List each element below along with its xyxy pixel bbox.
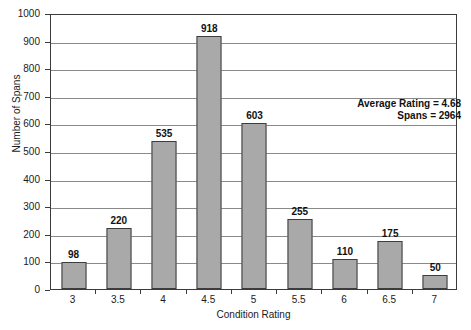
x-tick-label: 5 (251, 294, 257, 306)
y-tick-label: 0 (0, 285, 44, 295)
bar-value-label: 50 (430, 262, 441, 273)
y-tick-label: 400 (0, 175, 44, 185)
x-tick-label: 6 (341, 294, 347, 306)
x-tick-label: 6.5 (382, 294, 396, 306)
y-tick-label: 200 (0, 230, 44, 240)
bar-group: 255 (277, 15, 322, 289)
x-tick-label: 7 (432, 294, 438, 306)
bar (287, 219, 312, 289)
y-tick-label: 1000 (0, 9, 44, 19)
chart-annotation: Average Rating = 4.68 Spans = 2964 (357, 98, 461, 122)
x-axis-tick-labels: 33.544.555.566.57 (50, 294, 457, 308)
y-tick-label: 900 (0, 37, 44, 47)
y-axis-tick-labels: 01002003004005006007008009001000 (0, 14, 44, 290)
bar (378, 241, 403, 289)
x-tick-label: 3 (70, 294, 76, 306)
x-axis-title: Condition Rating (50, 309, 457, 321)
bar-chart: Number of Spans 010020030040050060070080… (0, 0, 471, 330)
bar-value-label: 255 (291, 206, 308, 217)
x-tick-label: 4.5 (201, 294, 215, 306)
y-tick-label: 100 (0, 257, 44, 267)
bar (61, 262, 86, 289)
bar-group: 110 (322, 15, 367, 289)
x-tick-label: 5.5 (292, 294, 306, 306)
plot-area: 9822053591860325511017550 (50, 14, 457, 290)
y-tick-label: 800 (0, 64, 44, 74)
annotation-average-rating: Average Rating = 4.68 (357, 98, 461, 110)
bar-group: 50 (413, 15, 458, 289)
annotation-span-count: Spans = 2964 (357, 110, 461, 122)
bar-group: 535 (141, 15, 186, 289)
bar (423, 275, 448, 289)
bar-value-label: 98 (68, 249, 79, 260)
bar-group: 220 (96, 15, 141, 289)
x-tick-label: 4 (160, 294, 166, 306)
bar (332, 259, 357, 289)
bar-group: 918 (187, 15, 232, 289)
bar-value-label: 220 (110, 215, 127, 226)
bar-group: 175 (368, 15, 413, 289)
y-tick-label: 500 (0, 147, 44, 157)
bar-value-label: 110 (337, 246, 353, 257)
x-tick-label: 3.5 (111, 294, 125, 306)
bar-value-label: 175 (382, 228, 399, 239)
y-tick-label: 300 (0, 202, 44, 212)
bar-value-label: 603 (246, 110, 263, 121)
y-tick-label: 600 (0, 119, 44, 129)
y-tick-label: 700 (0, 92, 44, 102)
bar (242, 123, 267, 289)
bars-layer: 9822053591860325511017550 (51, 15, 456, 289)
bar-value-label: 535 (156, 128, 173, 139)
bar (106, 228, 131, 289)
bar-group: 98 (51, 15, 96, 289)
bar-group: 603 (232, 15, 277, 289)
bar (152, 141, 177, 289)
bar-value-label: 918 (201, 23, 218, 34)
bar (197, 36, 222, 289)
